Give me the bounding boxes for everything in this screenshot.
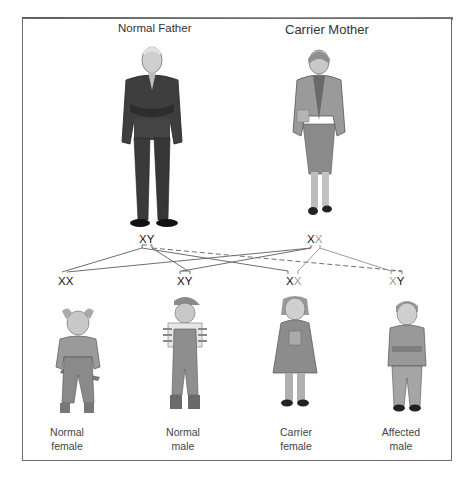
child-4-label: Affected male <box>366 425 436 453</box>
child-3-allele-1: X <box>286 275 294 287</box>
child-1-label-line2: female <box>32 439 102 453</box>
child-4-label-line2: male <box>366 439 436 453</box>
child-3-genotype: XX <box>286 275 301 287</box>
mother-carrier-allele: X <box>315 233 323 245</box>
child-2-label: Normal male <box>148 425 218 453</box>
child-2-label-line2: male <box>148 439 218 453</box>
child-4-allele-2: Y <box>397 275 405 287</box>
mother-allele-1: X <box>307 233 315 245</box>
child-4-label-line1: Affected <box>366 425 436 439</box>
carrier-female-illustration <box>265 295 325 415</box>
child-1-genotype: XX <box>58 275 73 287</box>
child-2-allele-2: Y <box>185 275 193 287</box>
child-3-label: Carrier female <box>261 425 331 453</box>
child-1-label-line1: Normal <box>32 425 102 439</box>
child-3-label-line1: Carrier <box>261 425 331 439</box>
child-4-genotype: XY <box>389 275 404 287</box>
father-allele-2: Y <box>147 233 155 245</box>
child-2-allele-1: X <box>177 275 185 287</box>
child-1-label: Normal female <box>32 425 102 453</box>
normal-male-illustration <box>160 295 210 420</box>
child-3-label-line2: female <box>261 439 331 453</box>
child-4-affected-allele: X <box>389 275 397 287</box>
child-2-label-line1: Normal <box>148 425 218 439</box>
child-3-carrier-allele: X <box>294 275 302 287</box>
father-genotype: XY <box>139 233 154 245</box>
father-allele-1: X <box>139 233 147 245</box>
mother-genotype: XX <box>307 233 322 245</box>
child-2-genotype: XY <box>177 275 192 287</box>
child-1-allele-2: X <box>66 275 74 287</box>
child-1-allele-1: X <box>58 275 66 287</box>
normal-female-illustration <box>50 305 110 420</box>
affected-male-illustration <box>382 298 432 418</box>
